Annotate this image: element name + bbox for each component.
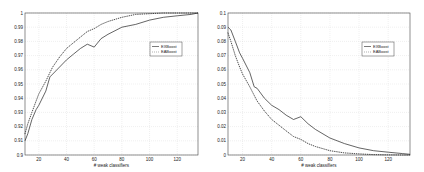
y-tick-label: 0.01 bbox=[217, 138, 226, 143]
y-tick-label: 0.95 bbox=[14, 82, 23, 87]
grid bbox=[25, 13, 198, 155]
legend-label: EXBoost bbox=[161, 44, 177, 49]
x-tick-label: 80 bbox=[327, 157, 333, 162]
y-tick-label: 0.99 bbox=[14, 25, 23, 30]
legend: EXBoostEABoost bbox=[150, 42, 182, 56]
x-axis-label: # weak classifiers bbox=[301, 163, 337, 168]
x-tick-label: 20 bbox=[240, 157, 246, 162]
x-tick-label: 120 bbox=[384, 157, 392, 162]
y-tick-label: 0.9 bbox=[17, 153, 24, 158]
series-line-exboost bbox=[25, 13, 198, 141]
y-tick-label: 0.04 bbox=[217, 96, 226, 101]
y-tick-label: 0.92 bbox=[14, 124, 23, 129]
x-tick-label: 80 bbox=[119, 157, 125, 162]
y-tick-label: 0.97 bbox=[14, 53, 23, 58]
y-tick-label: 0.94 bbox=[14, 96, 23, 101]
x-tick-label: 20 bbox=[36, 157, 42, 162]
y-tick-label: 0.02 bbox=[217, 124, 226, 129]
left-chart: 0.90.910.920.930.940.950.960.970.980.991… bbox=[14, 11, 198, 169]
x-tick-label: 40 bbox=[64, 157, 70, 162]
y-tick-label: 0.07 bbox=[217, 53, 226, 58]
y-tick-label: 0.03 bbox=[217, 110, 226, 115]
legend-label: EABoost bbox=[161, 49, 177, 54]
y-tick-label: 0.06 bbox=[217, 67, 226, 72]
x-tick-label: 100 bbox=[146, 157, 154, 162]
legend-label: EXBoost bbox=[373, 44, 389, 49]
y-tick-label: 0 bbox=[223, 153, 226, 158]
y-tick-label: 0.09 bbox=[217, 25, 226, 30]
legend: EXBoostEABoost bbox=[362, 42, 394, 56]
y-tick-label: 1 bbox=[20, 11, 23, 16]
y-tick-label: 0.08 bbox=[217, 39, 226, 44]
y-tick-label: 0.1 bbox=[220, 11, 227, 16]
y-tick-label: 0.96 bbox=[14, 67, 23, 72]
grid bbox=[228, 13, 410, 155]
right-chart: 00.010.020.030.040.050.060.070.080.090.1… bbox=[217, 11, 410, 169]
x-tick-label: 60 bbox=[92, 157, 98, 162]
x-tick-label: 60 bbox=[298, 157, 304, 162]
x-tick-label: 40 bbox=[269, 157, 275, 162]
charts-figure: 0.90.910.920.930.940.950.960.970.980.991… bbox=[0, 0, 424, 172]
x-tick-label: 100 bbox=[355, 157, 363, 162]
y-tick-label: 0.91 bbox=[14, 138, 23, 143]
series-line-eaboost bbox=[25, 13, 198, 134]
x-tick-label: 120 bbox=[173, 157, 181, 162]
y-tick-label: 0.93 bbox=[14, 110, 23, 115]
y-tick-label: 0.98 bbox=[14, 39, 23, 44]
x-axis-label: # weak classifiers bbox=[94, 163, 130, 168]
legend-label: EABoost bbox=[373, 49, 389, 54]
y-tick-label: 0.05 bbox=[217, 82, 226, 87]
